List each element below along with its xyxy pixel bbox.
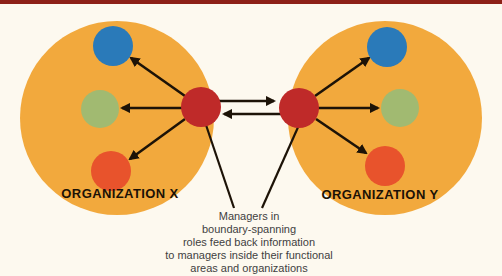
callout-line-right — [262, 125, 299, 208]
org-x-unit-bottom-circle — [91, 151, 131, 191]
org-y-label: ORGANIZATION Y — [305, 187, 455, 202]
boundary-spanning-figure: ORGANIZATION X ORGANIZATION Y Managers i… — [0, 0, 502, 276]
org-x-unit-middle-circle — [81, 90, 119, 128]
org-y-unit-middle-circle — [381, 89, 419, 127]
org-x-boundary-spanner-node — [181, 87, 221, 127]
figure-caption: Managers in boundary-spanning roles feed… — [99, 210, 399, 275]
org-y-boundary-spanner-node — [279, 88, 319, 128]
callout-line-left — [206, 125, 234, 208]
org-y-unit-top-circle — [367, 27, 407, 67]
org-y-unit-bottom-circle — [365, 146, 405, 186]
org-x-unit-top-circle — [93, 26, 133, 66]
org-x-label: ORGANIZATION X — [45, 186, 195, 201]
